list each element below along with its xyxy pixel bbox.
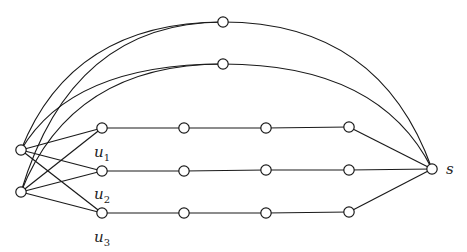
label-u1: u1 <box>94 143 110 163</box>
vertex-a2 <box>16 187 26 197</box>
vertex-u2 <box>97 166 107 176</box>
edge-a1-u1 <box>21 128 102 150</box>
graph-diagram: u1 u2 u3 s <box>0 0 467 252</box>
vertex-r2b <box>179 166 189 176</box>
vertex-t1 <box>218 17 228 27</box>
vertex-r1b <box>179 123 189 133</box>
edge-r1c-r1d <box>266 127 349 128</box>
vertex-u1 <box>97 123 107 133</box>
edge-a2-u2 <box>21 171 102 192</box>
vertex-s <box>427 164 437 174</box>
vertex-r1c <box>261 123 271 133</box>
labels-layer: u1 u2 u3 s <box>94 143 454 248</box>
edge-r2d-s <box>349 169 432 170</box>
vertex-u3 <box>97 208 107 218</box>
label-u2: u2 <box>94 185 110 205</box>
vertex-t2 <box>218 59 228 69</box>
edge-r3c-r3d <box>266 212 349 213</box>
vertex-r1d <box>344 122 354 132</box>
edge-a2-u3 <box>21 192 102 213</box>
edge-a2-t1 <box>21 22 223 192</box>
edge-a1-t1 <box>21 22 223 150</box>
label-u3: u3 <box>94 228 110 248</box>
vertex-a1 <box>16 145 26 155</box>
vertex-r2c <box>261 165 271 175</box>
vertex-r3d <box>344 207 354 217</box>
edge-t1-s <box>223 22 432 169</box>
vertex-r3b <box>179 208 189 218</box>
vertices-layer <box>16 17 437 218</box>
vertex-r2d <box>344 165 354 175</box>
edge-r2b-r2c <box>184 170 266 171</box>
edge-r3d-s <box>349 169 432 212</box>
label-s: s <box>446 160 454 178</box>
graph-svg: u1 u2 u3 s <box>0 0 467 252</box>
edges-layer <box>21 22 432 213</box>
vertex-r3c <box>261 208 271 218</box>
